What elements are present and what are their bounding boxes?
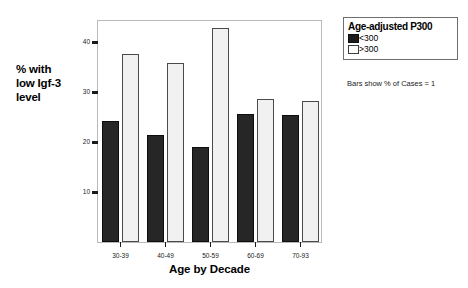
bar-chart-figure: % with low Igf-3 level 10203040 30-3940-… <box>0 0 468 288</box>
bar-40-49-<300 <box>147 135 165 242</box>
legend-item: >300 <box>348 44 453 55</box>
legend-items: <300>300 <box>348 33 453 55</box>
bar-40-49->300 <box>167 63 185 242</box>
x-axis-tick-label: 40-49 <box>157 252 174 259</box>
plot-frame: 10203040 30-3940-4950-5960-6970-93 <box>97 20 322 243</box>
x-axis-tick-mark <box>210 242 212 247</box>
y-axis-tick-label: 30 <box>83 88 90 96</box>
bar-70-93-<300 <box>282 115 300 242</box>
legend-item: <300 <box>348 33 453 44</box>
legend-title: Age-adjusted P300 <box>348 21 453 32</box>
y-axis-tick-label: 20 <box>83 138 90 146</box>
bar-60-69->300 <box>257 99 275 242</box>
x-axis-tick-label: 50-59 <box>202 252 219 259</box>
x-axis-tick-mark <box>300 242 302 247</box>
y-axis-title: % with low Igf-3 level <box>16 62 94 104</box>
bar-70-93->300 <box>302 101 320 242</box>
plot-area: 10203040 30-3940-4950-5960-6970-93 <box>98 21 321 242</box>
y-axis-tick-mark <box>92 191 98 194</box>
x-axis-tick-mark <box>120 242 122 247</box>
legend-item-label: >300 <box>359 45 378 54</box>
bar-30-39->300 <box>122 54 140 242</box>
y-axis-title-line-1: % with <box>16 62 94 76</box>
legend-swatch-dark <box>348 34 359 43</box>
y-axis-tick-label: 10 <box>83 188 90 196</box>
x-axis-tick-label: 30-39 <box>112 252 129 259</box>
chart-footnote: Bars show % of Cases = 1 <box>347 79 435 88</box>
y-axis-tick-mark <box>92 141 98 144</box>
bar-30-39-<300 <box>102 121 120 242</box>
bar-50-59->300 <box>212 28 230 242</box>
x-axis-title: Age by Decade <box>97 263 322 275</box>
legend-swatch-light <box>348 45 359 54</box>
x-axis-tick-label: 60-69 <box>247 252 264 259</box>
x-axis-tick-mark <box>255 242 257 247</box>
x-axis-tick-mark <box>165 242 167 247</box>
y-axis-tick-label: 40 <box>83 38 90 46</box>
bar-50-59-<300 <box>192 147 210 242</box>
y-axis-tick-mark <box>92 41 98 44</box>
x-axis-tick-label: 70-93 <box>292 252 309 259</box>
legend-item-label: <300 <box>359 34 378 43</box>
bar-60-69-<300 <box>237 114 255 242</box>
y-axis-tick-mark <box>92 91 98 94</box>
legend: Age-adjusted P300 <300>300 <box>343 17 458 60</box>
